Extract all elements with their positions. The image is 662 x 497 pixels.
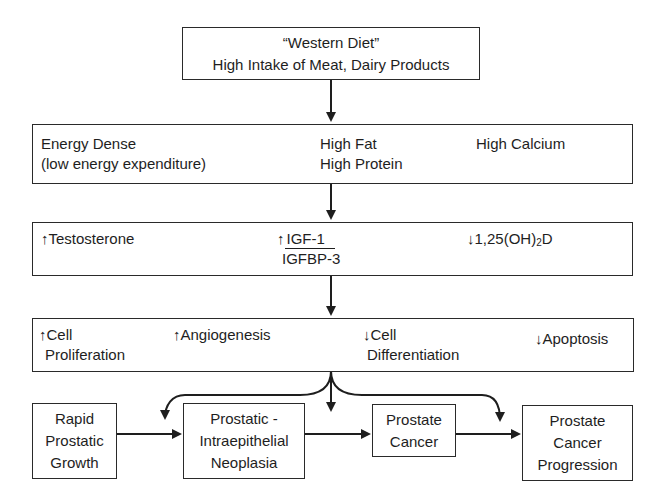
energy-expenditure-label: (low energy expenditure): [41, 154, 206, 174]
up-arrow-icon: ↑: [277, 230, 285, 247]
hormonal-effects-box: ↑Testosterone ↑IGF-1 IGFBP-3 ↓1,25(OH)2D: [32, 222, 633, 276]
differentiation-label: Differentiation: [363, 345, 459, 365]
pin-box: Prostatic - Intraepithelial Neoplasia: [183, 403, 305, 479]
cell-label: Cell: [47, 326, 73, 343]
high-fat-label: High Fat: [320, 134, 403, 154]
progression-label: Progression: [537, 454, 617, 476]
prostate-cancer-box: Prostate Cancer: [372, 404, 456, 457]
western-diet-title: “Western Diet”: [283, 32, 379, 54]
growth-label: Growth: [50, 452, 98, 474]
igf-1-label: IGF-1: [285, 230, 335, 249]
cell-differentiation-item: ↓Cell Differentiation: [363, 325, 459, 365]
vitamin-d-label: 1,25(OH): [475, 230, 537, 247]
proliferation-label: Proliferation: [39, 345, 125, 365]
prostate-label: Prostate: [386, 409, 442, 431]
rapid-label: Rapid: [55, 408, 94, 430]
intraepithelial-label: Intraepithelial: [199, 430, 288, 452]
up-arrow-icon: ↑: [39, 326, 47, 343]
fat-protein-item: High Fat High Protein: [320, 134, 403, 174]
apoptosis-label: Apoptosis: [543, 330, 609, 347]
down-arrow-icon: ↓: [535, 330, 543, 347]
igf-ratio-item: ↑IGF-1 IGFBP-3: [277, 229, 340, 269]
angiogenesis-label: Angiogenesis: [181, 326, 271, 343]
energy-dense-label: Energy Dense: [41, 134, 206, 154]
cancer-progression-box: Prostate Cancer Progression: [522, 405, 633, 481]
neoplasia-label: Neoplasia: [211, 452, 278, 474]
high-calcium-label: High Calcium: [476, 134, 565, 154]
testosterone-label: Testosterone: [49, 230, 135, 247]
calcium-item: High Calcium: [476, 134, 565, 154]
igfbp-3-label: IGFBP-3: [277, 249, 340, 269]
cell-label: Cell: [371, 326, 397, 343]
high-protein-label: High Protein: [320, 154, 403, 174]
cellular-effects-box: ↑Cell Proliferation ↑Angiogenesis ↓Cell …: [32, 318, 634, 372]
cancer-label: Cancer: [553, 432, 601, 454]
diet-characteristics-box: Energy Dense (low energy expenditure) Hi…: [32, 124, 633, 184]
prostatic-label: Prostatic -: [210, 408, 278, 430]
apoptosis-item: ↓Apoptosis: [535, 329, 608, 349]
rapid-prostatic-growth-box: Rapid Prostatic Growth: [32, 403, 117, 479]
down-arrow-icon: ↓: [467, 230, 475, 247]
vitamin-d-suffix: D: [542, 230, 553, 247]
up-arrow-icon: ↑: [173, 326, 181, 343]
prostate-label: Prostate: [550, 410, 606, 432]
testosterone-item: ↑Testosterone: [41, 229, 134, 249]
down-arrow-icon: ↓: [363, 326, 371, 343]
vitamin-d-item: ↓1,25(OH)2D: [467, 229, 553, 253]
up-arrow-icon: ↑: [41, 230, 49, 247]
cell-proliferation-item: ↑Cell Proliferation: [39, 325, 125, 365]
prostatic-label: Prostatic: [45, 430, 103, 452]
energy-dense-item: Energy Dense (low energy expenditure): [41, 134, 206, 174]
cancer-label: Cancer: [390, 431, 438, 453]
western-diet-box: “Western Diet” High Intake of Meat, Dair…: [182, 27, 480, 80]
western-diet-subtitle: High Intake of Meat, Dairy Products: [213, 54, 450, 76]
angiogenesis-item: ↑Angiogenesis: [173, 325, 271, 345]
